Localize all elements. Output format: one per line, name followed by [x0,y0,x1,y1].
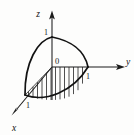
figure-container: z y x 1 1 1 0 [0,0,134,135]
origin-label: 0 [55,56,59,66]
axis-x-label: x [11,123,17,133]
coordinate-axes-diagram: z y x 1 1 1 0 [0,0,134,135]
base-region-group [25,67,88,100]
axis-y-label: y [125,57,131,67]
axis-z-label: z [35,9,40,19]
figure-caption [53,126,79,130]
axis-z-tick-label: 1 [44,28,48,37]
base-region-fill [25,67,88,96]
axis-x-tick-label: 1 [26,101,30,110]
axis-y-tick-label: 1 [86,72,90,81]
